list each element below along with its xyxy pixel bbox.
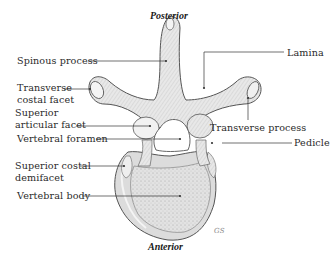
label-transverse-costal-facet-line2: costal facet (17, 94, 74, 105)
label-lamina: Lamina (287, 47, 324, 58)
label-superior-costal-demifacet-line2: demifacet (15, 172, 64, 183)
label-vertebral-body: Vertebral body (17, 190, 90, 201)
label-superior-articular-facet-line1: Superior (15, 107, 58, 118)
label-superior-costal-demifacet-line1: Superior costal (15, 160, 91, 171)
artist-signature: GS (214, 226, 225, 237)
vertebra-diagram: Posterior Anterior Spinous process Trans… (0, 0, 331, 256)
label-spinous-process: Spinous process (17, 55, 98, 66)
label-vertebral-foramen: Vertebral foramen (17, 133, 108, 144)
label-pedicle: Pedicle (294, 137, 330, 148)
posterior-label: Posterior (150, 10, 188, 21)
posterior-arch-shape (88, 16, 262, 127)
label-transverse-process: Transverse process (210, 122, 306, 133)
label-superior-articular-facet-line2: articular facet (15, 119, 86, 130)
label-transverse-costal-facet-line1: Transverse (17, 82, 72, 93)
anterior-label: Anterior (148, 241, 183, 252)
